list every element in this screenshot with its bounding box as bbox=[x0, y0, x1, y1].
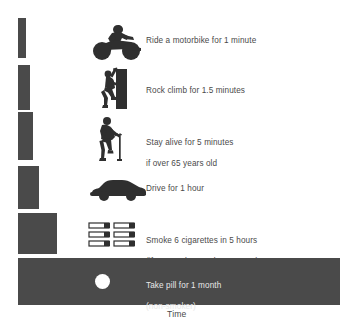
row-label-cigarettes-line1: Smoke 6 cigarettes in 5 hours bbox=[146, 236, 258, 247]
bar-cigarettes bbox=[18, 213, 57, 254]
row-label-stayalive-line1: Stay alive for 5 minutes bbox=[146, 138, 234, 149]
pill-icon bbox=[95, 274, 110, 289]
motorbike-icon bbox=[88, 22, 144, 60]
row-label-drive: Drive for 1 hour bbox=[146, 184, 204, 195]
chart-row-pill: Take pill for 1 month (non-smoker) Time bbox=[0, 258, 360, 320]
axis-label-time: Time bbox=[167, 309, 187, 319]
cigarettes-icon bbox=[88, 220, 148, 250]
bar-rockclimb bbox=[18, 65, 30, 110]
row-label-pill-line1: Take pill for 1 month bbox=[146, 281, 221, 292]
car-icon bbox=[88, 176, 148, 202]
row-label-rockclimb: Rock climb for 1.5 minutes bbox=[146, 86, 245, 97]
rock-climber-icon bbox=[92, 63, 140, 111]
row-label-motorbike: Ride a motorbike for 1 minute bbox=[146, 36, 256, 47]
chart-row-stayalive: Stay alive for 5 minutes if over 65 year… bbox=[0, 110, 360, 164]
chart-row-motorbike: Ride a motorbike for 1 minute bbox=[0, 0, 360, 60]
risk-comparison-chart: Ride a motorbike for 1 minute Rock climb… bbox=[0, 0, 360, 320]
chart-row-drive: Drive for 1 hour bbox=[0, 164, 360, 211]
chart-row-rockclimb: Rock climb for 1.5 minutes bbox=[0, 60, 360, 110]
bar-motorbike bbox=[18, 18, 26, 58]
bar-drive bbox=[18, 166, 39, 209]
chart-row-cigarettes: Smoke 6 cigarettes in 5 hours (if a 20-a… bbox=[0, 211, 360, 258]
elderly-person-icon bbox=[92, 114, 136, 162]
bar-stayalive bbox=[18, 112, 33, 160]
